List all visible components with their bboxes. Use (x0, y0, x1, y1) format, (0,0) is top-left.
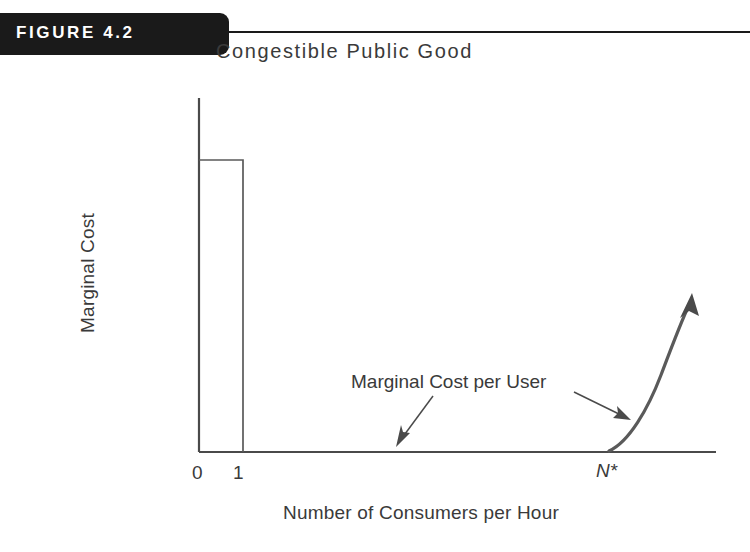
left-leader-arrowhead (396, 425, 410, 447)
left-leader-line (402, 396, 433, 438)
plot-canvas (0, 0, 750, 552)
figure-container: FIGURE 4.2 Congestible Public Good Margi… (0, 0, 750, 552)
right-leader-line (574, 392, 621, 415)
x-axis-title: Number of Consumers per Hour (283, 502, 559, 524)
x-tick-label-nstar: N* (596, 460, 617, 482)
y-axis-title: Marginal Cost (77, 173, 99, 373)
curve-annotation-label: Marginal Cost per User (351, 371, 546, 393)
curve-arrowhead (680, 293, 699, 318)
x-tick-label-0: 0 (192, 462, 203, 484)
x-tick-label-1: 1 (233, 462, 244, 484)
marginal-cost-curve (609, 305, 689, 451)
first-user-step-line (199, 160, 243, 452)
